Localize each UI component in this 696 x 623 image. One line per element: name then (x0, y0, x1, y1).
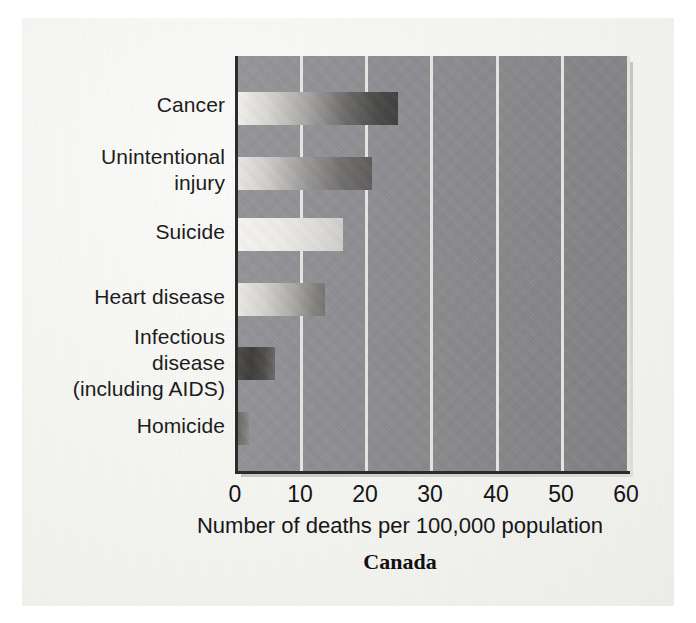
bar-suicide-fill (238, 218, 343, 251)
xtick-30: 30 (400, 481, 460, 507)
xtick-50: 50 (531, 481, 591, 507)
plot-area (235, 56, 630, 474)
category-label-homicide: Homicide (137, 413, 225, 439)
bar-heart-disease-fill (238, 283, 325, 316)
bar-homicide-fill (238, 412, 249, 445)
x-axis-title: Number of deaths per 100,000 population (150, 512, 650, 540)
chart-subtitle-country: Canada (150, 548, 650, 576)
bar-suicide[interactable] (238, 218, 343, 251)
xtick-0: 0 (205, 481, 265, 507)
gridline-40 (496, 56, 499, 471)
gridline-60 (627, 56, 630, 471)
category-label-heart-disease: Heart disease (94, 284, 225, 310)
xtick-10: 10 (270, 481, 330, 507)
gridline-30 (430, 56, 433, 471)
bar-cancer-fill (238, 92, 398, 125)
category-label-group: Cancer Unintentional injury Suicide Hear… (20, 0, 225, 480)
category-label-suicide: Suicide (155, 219, 225, 245)
bar-unintentional-injury-fill (238, 157, 372, 190)
xtick-60: 60 (596, 481, 656, 507)
bar-cancer[interactable] (238, 92, 398, 125)
bar-infectious-disease-fill (238, 347, 275, 380)
bar-homicide[interactable] (238, 412, 249, 445)
gridline-50 (561, 56, 564, 471)
bar-unintentional-injury[interactable] (238, 157, 372, 190)
xtick-40: 40 (466, 481, 526, 507)
bar-infectious-disease[interactable] (238, 347, 275, 380)
bar-heart-disease[interactable] (238, 283, 325, 316)
chart-page: Cancer Unintentional injury Suicide Hear… (0, 0, 696, 623)
category-label-unintentional-injury: Unintentional injury (101, 144, 225, 196)
category-label-cancer: Cancer (157, 92, 225, 118)
xtick-20: 20 (335, 481, 395, 507)
category-label-infectious-disease: Infectious disease (including AIDS) (73, 324, 225, 402)
